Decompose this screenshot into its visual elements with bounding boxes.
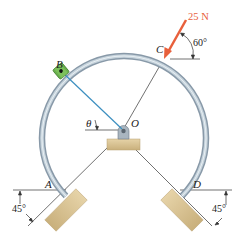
label-d: D (192, 178, 201, 190)
pivot-support (107, 126, 140, 151)
label-o: O (131, 117, 139, 129)
label-c: C (156, 43, 164, 55)
cord-bo (61, 71, 122, 129)
label-b: B (56, 58, 63, 70)
label-a: A (44, 178, 52, 190)
force-angle-label: 60° (193, 37, 207, 48)
right-angle-label: 45° (212, 203, 226, 214)
left-angle-label: 45° (12, 203, 26, 214)
ring-diagram: B C A D O θ 25 N 60° 45° 45° (0, 0, 240, 236)
force-arrow (164, 20, 186, 59)
force-label: 25 N (188, 11, 209, 22)
theta-label: θ (86, 117, 92, 129)
theta-arc (95, 120, 99, 130)
